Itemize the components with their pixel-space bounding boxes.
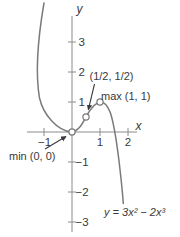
y-tick-label-neg1: −1 <box>76 156 89 168</box>
x-tick-label-2: 2 <box>125 136 131 148</box>
max-point-label: max (1, 1) <box>101 90 151 102</box>
y-tick-label-1: 1 <box>79 96 85 108</box>
key-point-markers <box>69 99 103 135</box>
x-tick-label-neg1: −1 <box>38 136 51 148</box>
graph-svg: y x 3 2 1 −1 −2 −3 −1 1 2 (1/2, 1/2) max… <box>0 0 180 237</box>
y-tick-label-neg2: −2 <box>76 186 89 198</box>
x-axis-label: x <box>135 119 143 133</box>
y-tick-label-3: 3 <box>79 36 85 48</box>
inflection-point-label: (1/2, 1/2) <box>90 70 134 82</box>
x-tick-label-1: 1 <box>97 136 103 148</box>
y-tick-label-neg3: −3 <box>76 216 89 228</box>
y-axis-label: y <box>76 2 84 16</box>
curve-equation-label: y = 3x² − 2x³ <box>103 206 165 218</box>
min-point-label: min (0, 0) <box>9 150 55 162</box>
y-tick-label-2: 2 <box>79 66 85 78</box>
inflection-point-marker <box>83 114 89 120</box>
figure-canvas: y x 3 2 1 −1 −2 −3 −1 1 2 (1/2, 1/2) max… <box>0 0 180 237</box>
min-point-marker <box>69 129 75 135</box>
